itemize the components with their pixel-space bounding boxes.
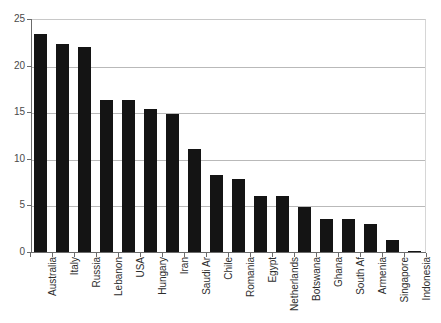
bar (408, 251, 421, 252)
y-axis-tick-mark (27, 19, 31, 20)
x-axis-tick-label: Netherlands (288, 257, 301, 311)
bar (34, 34, 47, 252)
x-axis-tick-label: Botswana (310, 257, 323, 301)
bar (342, 219, 355, 252)
bar-chart: 0510152025 AustraliaItalyRussiaLebanonUS… (0, 0, 441, 323)
x-axis-tick-label: USA (134, 257, 147, 278)
y-axis-tick-mark (27, 159, 31, 160)
bars-layer (32, 19, 426, 252)
x-axis-tick-label: Romania (244, 257, 257, 297)
y-axis: 0510152025 (0, 0, 25, 280)
x-axis-tick-mark (30, 253, 31, 257)
y-axis-tick-label: 0 (3, 247, 25, 257)
y-axis-tick-label: 5 (3, 200, 25, 210)
x-axis-tick-label: Ghana (332, 257, 345, 287)
bar (188, 149, 201, 252)
x-axis-tick-label: Saudi Ar (200, 257, 213, 295)
x-axis-tick-label: Iran (178, 257, 191, 274)
bar (78, 47, 91, 252)
x-axis-tick-label: Russia (90, 257, 103, 288)
x-axis-tick-label: Singapore (398, 257, 411, 303)
x-axis-tick-label: Australia (46, 257, 59, 296)
bar (100, 100, 113, 252)
y-axis-tick-mark (27, 66, 31, 67)
y-axis-tick-label: 20 (3, 61, 25, 71)
bar (122, 100, 135, 252)
x-axis-tick-label: Italy (68, 257, 81, 275)
bar (232, 179, 245, 252)
bar (364, 224, 377, 252)
x-axis-tick-label: Egypt (266, 257, 279, 283)
x-axis-tick-label: Armenia (376, 257, 389, 294)
bar (298, 207, 311, 252)
x-axis-tick-label: Hungary (156, 257, 169, 295)
bar (56, 44, 69, 252)
y-axis-tick-mark (27, 112, 31, 113)
y-axis-tick-label: 10 (3, 154, 25, 164)
x-axis-tick-label: Indonesia (420, 257, 433, 300)
bar (144, 109, 157, 252)
bar (276, 196, 289, 252)
x-axis-labels: AustraliaItalyRussiaLebanonUSAHungaryIra… (32, 257, 426, 323)
y-axis-tick-label: 15 (3, 107, 25, 117)
x-axis-tick-label: Lebanon (112, 257, 125, 296)
y-axis-tick-mark (27, 205, 31, 206)
y-axis-tick-label: 25 (3, 14, 25, 24)
bar (166, 114, 179, 252)
y-axis-tick-mark (27, 252, 31, 253)
x-axis-tick-label: Chile (222, 257, 235, 280)
bar (386, 240, 399, 252)
bar (210, 175, 223, 252)
bar (254, 196, 267, 252)
x-axis-tick-label: South Af (354, 257, 367, 295)
bar (320, 219, 333, 252)
